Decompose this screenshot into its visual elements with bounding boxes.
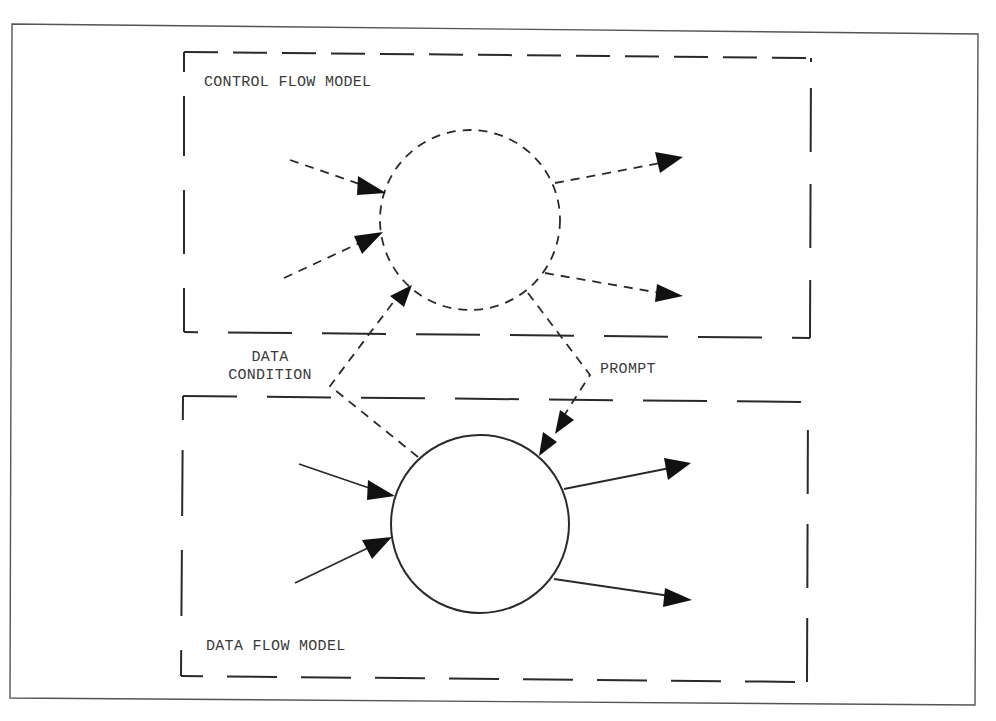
control-input-arrow-2 xyxy=(284,240,366,278)
prompt-arrowheads xyxy=(539,410,574,456)
control-flow-region-box xyxy=(184,52,811,338)
outer-frame xyxy=(10,24,978,705)
control-output-arrow-2 xyxy=(545,273,660,293)
data-output-arrow-1 xyxy=(564,468,670,489)
data-condition-label-line1: DATA xyxy=(220,349,320,367)
control-input-arrow-1 xyxy=(290,160,368,187)
prompt-connector xyxy=(528,293,590,425)
data-condition-connector xyxy=(330,296,418,457)
data-arrowheads xyxy=(362,458,692,607)
control-output-arrow-1 xyxy=(555,163,660,183)
data-process-node xyxy=(391,435,569,613)
diagram-canvas xyxy=(0,0,996,721)
data-condition-label-line2: CONDITION xyxy=(220,367,320,385)
prompt-label: PROMPT xyxy=(600,361,656,379)
control-process-node xyxy=(380,130,560,310)
data-output-arrow-2 xyxy=(554,579,670,596)
data-flow-arrows xyxy=(295,464,670,596)
data-input-arrow-1 xyxy=(299,464,375,490)
control-flow-model-label: CONTROL FLOW MODEL xyxy=(204,74,371,92)
data-condition-label: DATA CONDITION xyxy=(220,349,320,385)
data-flow-model-label: DATA FLOW MODEL xyxy=(206,638,346,656)
data-input-arrow-2 xyxy=(295,546,372,583)
control-flow-arrows xyxy=(284,160,660,293)
